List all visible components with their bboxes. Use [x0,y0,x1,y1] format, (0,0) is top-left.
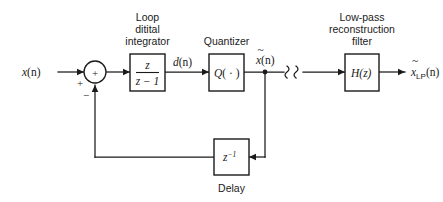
quantizer-caption: Quantizer [204,35,250,47]
loop-integrator-caption-line2: ditital [135,23,160,35]
lowpass-filter-arg: (z) [359,67,371,80]
signal-input-args: (n) [27,66,41,79]
block-quantizer: Q( · ) Quantizer [204,35,250,91]
loop-integrator-caption-line3: integrator [125,35,170,47]
loop-integrator-caption-line1: Loop [136,11,160,23]
summing-junction-input-sign: + [77,77,83,89]
filter-output-args: (n) [426,66,440,79]
summing-junction-inner-sign: + [92,67,98,79]
delay-caption: Delay [218,182,246,194]
lowpass-filter-caption-line2: reconstruction [329,23,395,35]
delay-exponent: −1 [227,150,236,159]
lowpass-filter-caption-line3: filter [352,35,372,47]
lowpass-filter-caption-line1: Low-pass [340,11,385,23]
loop-integrator-numerator: z [144,59,150,71]
signal-label-d: d(n) [173,56,192,69]
signal-d-args: (n) [179,56,193,69]
block-delay: z−1 Delay [214,139,249,194]
quantizer-label-arg: ( · ) [222,67,239,80]
quantizer-output-text: x(n) [255,54,275,67]
summing-junction-feedback-sign: − [83,89,89,101]
lowpass-filter-label: H(z) [350,67,372,80]
quantizer-output-args: (n) [261,54,275,67]
loop-integrator-denominator: z − 1 [135,75,160,87]
filter-output-subscript: LP [416,72,426,81]
block-diagram: + + − z z − 1 Loop ditital integrator Q(… [0,0,443,202]
signal-label-input: x(n) [21,66,41,79]
quantizer-label: Q( · ) [214,67,240,80]
